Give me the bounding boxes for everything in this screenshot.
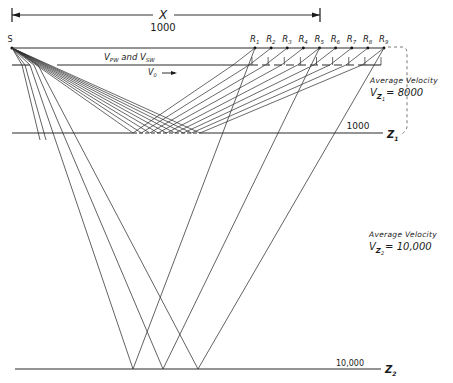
arrowhead-right-icon: [312, 13, 320, 18]
deep-upgoing-ray: [133, 48, 255, 369]
receiver-4: R4: [298, 34, 308, 49]
z1-depth-label: 1000: [347, 121, 370, 131]
receiver-label: R8: [363, 34, 373, 45]
receiver-1: R1: [250, 34, 259, 49]
deep-ray-2: [12, 48, 320, 369]
deep-upgoing-ray: [198, 48, 384, 369]
receiver-label: R3: [282, 34, 292, 45]
layer2-velocity-title: Average Velocity: [368, 230, 437, 239]
deep-ray-3: [12, 48, 384, 369]
receiver-3: R3: [282, 34, 292, 49]
dimension-symbol: X: [158, 8, 168, 22]
layer2-velocity-value: VZ2= 10,000: [369, 241, 432, 256]
upgoing-ray: [200, 65, 362, 133]
fan-ray: [22, 65, 40, 140]
upgoing-ray: [150, 65, 266, 133]
offset-dimension: X 1000: [12, 8, 320, 33]
receiver-6: R6: [331, 34, 341, 49]
z1-name-label: Z1: [386, 129, 398, 142]
receiver-label: R4: [298, 34, 308, 45]
shallow-ray-paths: [12, 48, 384, 133]
receiver-group: R1R2R3R4R5R6R7R8R9: [250, 34, 389, 49]
arrowhead-left-icon: [12, 13, 20, 18]
layer1-velocity-title: Average Velocity: [369, 76, 438, 85]
z2-depth-label: 10,000: [336, 359, 364, 368]
z2-name-label: Z2: [384, 364, 396, 377]
source-label: S: [7, 35, 12, 44]
upgoing-ray: [167, 65, 298, 133]
receiver-8: R8: [363, 34, 373, 49]
deep-ray-paths: [12, 48, 384, 369]
v0-velocity-label: V0: [148, 68, 177, 78]
upgoing-ray: [192, 65, 346, 133]
receiver-label: R9: [379, 34, 389, 45]
weathering-velocity-label: VPW and VSW: [104, 52, 155, 63]
shallow-ray-5: [12, 48, 320, 133]
receiver-5: R5: [315, 34, 325, 49]
deep-upgoing-ray: [163, 48, 320, 369]
svg-text:V0: V0: [148, 68, 157, 78]
seismic-reflection-diagram: X 1000 S VPW and VSW V0 R1R2R3R4R5R6R7R8…: [0, 0, 453, 383]
receiver-label: R5: [315, 34, 325, 45]
receiver-label: R2: [266, 34, 276, 45]
receiver-label: R6: [331, 34, 341, 45]
downgoing-ray: [12, 48, 183, 133]
v0-arrow-icon: [171, 71, 177, 75]
receiver-7: R7: [347, 34, 357, 49]
deep-ray-1: [12, 48, 255, 369]
receiver-9: R9: [379, 34, 389, 49]
receiver-label: R1: [250, 34, 259, 45]
layer1-velocity-value: VZ1= 8000: [370, 87, 423, 102]
shallow-ray-8: [12, 48, 368, 133]
upgoing-ray: [183, 65, 330, 133]
deep-downgoing-weathering: [12, 48, 38, 65]
receiver-label: R7: [347, 34, 357, 45]
shallow-ray-9: [12, 48, 384, 133]
svg-text:VPW and VSW: VPW and VSW: [104, 52, 155, 63]
receiver-2: R2: [266, 34, 276, 49]
deep-downgoing-ray: [38, 65, 198, 369]
dimension-value: 1000: [150, 22, 175, 33]
